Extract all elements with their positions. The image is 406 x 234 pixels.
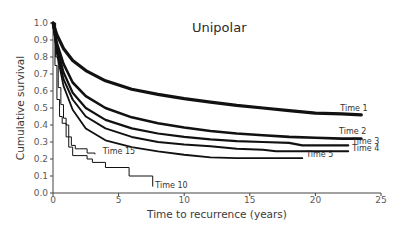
series-line-time-2 xyxy=(53,23,361,139)
series-line-time-10 xyxy=(53,23,153,186)
y-tick-label: 0.6 xyxy=(34,86,49,96)
x-tick-label: 0 xyxy=(50,195,56,205)
y-tick-label: 1.0 xyxy=(34,18,49,28)
y-tick-group: 0.00.10.20.30.40.50.60.70.80.91.0 xyxy=(34,18,53,198)
series-line-time-1 xyxy=(53,23,361,115)
series-label-time-15: Time 15 xyxy=(102,147,135,156)
y-tick-label: 0.0 xyxy=(34,188,49,198)
y-tick-label: 0.9 xyxy=(34,35,49,45)
series-label-time-5: Time 5 xyxy=(305,150,333,159)
series-group xyxy=(53,23,361,186)
chart-title: Unipolar xyxy=(192,20,247,35)
x-tick-label: 25 xyxy=(375,195,386,205)
y-tick-label: 0.5 xyxy=(34,103,48,113)
survival-chart: Unipolar 0.00.10.20.30.40.50.60.70.80.91… xyxy=(0,0,406,234)
y-tick-label: 0.3 xyxy=(34,137,48,147)
x-tick-label: 5 xyxy=(116,195,122,205)
y-axis-label: Cumulative survival xyxy=(14,56,26,160)
series-line-time-3 xyxy=(53,23,348,145)
y-tick-label: 0.8 xyxy=(34,52,49,62)
y-tick-label: 0.2 xyxy=(34,154,48,164)
y-tick-label: 0.7 xyxy=(34,69,48,79)
x-tick-label: 10 xyxy=(178,195,190,205)
x-axis-label: Time to recurrence (years) xyxy=(146,208,287,220)
y-axis: 0.00.10.20.30.40.50.60.70.80.91.0 Cumula… xyxy=(14,18,53,198)
x-tick-label: 20 xyxy=(310,195,322,205)
x-tick-label: 15 xyxy=(244,195,255,205)
series-label-time-1: Time 1 xyxy=(339,104,367,113)
series-line-time-5 xyxy=(53,23,302,158)
series-label-group: Time 1Time 2Time 3Time 4Time 5Time 15Tim… xyxy=(102,104,379,190)
x-tick-group: 0510152025 xyxy=(50,193,387,205)
x-axis: 0510152025 Time to recurrence (years) xyxy=(50,193,387,220)
y-tick-label: 0.1 xyxy=(34,171,48,181)
series-line-time-4 xyxy=(53,23,348,151)
series-label-time-2: Time 2 xyxy=(338,127,366,136)
series-label-time-10: Time 10 xyxy=(154,181,187,190)
series-label-time-4: Time 4 xyxy=(351,144,379,153)
y-tick-label: 0.4 xyxy=(34,120,49,130)
